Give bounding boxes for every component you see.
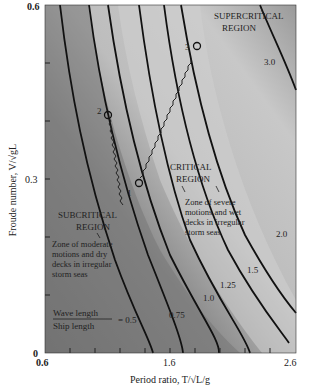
ratio-equals: = 0.5 <box>118 315 137 325</box>
marker-label-1: 1 <box>127 188 132 198</box>
y-tick-0.3: 0.3 <box>25 174 38 185</box>
x-tick-1.6: 1.6 <box>163 357 176 368</box>
severe-note-2: motions and wet <box>185 207 242 217</box>
x-tick-2.6: 2.6 <box>284 357 297 368</box>
x-axis-title: Period ratio, T/√L/g <box>130 374 210 385</box>
ratio-denominator: Ship length <box>53 321 95 331</box>
curve-label-3.0: 3.0 <box>264 57 276 67</box>
ratio-numerator: Wave length <box>53 308 99 318</box>
marker-label-2: 2 <box>97 106 102 116</box>
marker-label-3: 3 <box>185 42 190 52</box>
subcritical-label-1: SUBCRITICAL <box>58 210 117 220</box>
moderate-note-1: Zone of moderate <box>52 239 113 249</box>
curve-label-2.0: 2.0 <box>276 229 288 239</box>
moderate-note-4: storm seas <box>52 269 88 279</box>
severe-note-3: decks in irregular <box>185 217 245 227</box>
supercritical-label-1: SUPERCRITICAL <box>214 11 284 21</box>
critical-label-1: CRITICAL <box>170 162 212 172</box>
x-tick-0.6: 0.6 <box>36 357 49 368</box>
curve-label-1.0: 1.0 <box>203 293 215 303</box>
moderate-note-3: decks in irregular <box>52 259 112 269</box>
supercritical-label-2: REGION <box>222 23 256 33</box>
y-axis-title: Froude number, V/√gL <box>7 144 18 236</box>
moderate-note-2: motions and dry <box>52 249 108 259</box>
y-tick-0.6: 0.6 <box>27 1 40 12</box>
severe-note-4: storm seas <box>185 227 221 237</box>
chart: 1 2 3 0.6 0.3 0 0.6 1.6 2.6 Period ratio… <box>0 0 311 391</box>
curve-label-1.5: 1.5 <box>247 265 259 275</box>
critical-label-2: REGION <box>176 174 210 184</box>
severe-note-1: Zone of severe <box>185 197 236 207</box>
subcritical-label-2: REGION <box>76 222 110 232</box>
curve-label-0.75: 0.75 <box>169 310 185 320</box>
curve-label-1.25: 1.25 <box>220 280 236 290</box>
